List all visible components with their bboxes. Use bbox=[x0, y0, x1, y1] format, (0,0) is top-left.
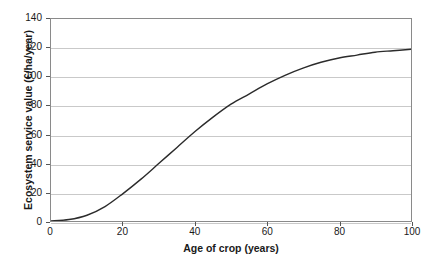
x-tick-60: 60 bbox=[247, 226, 287, 238]
x-tick-label: 20 bbox=[102, 226, 142, 238]
x-tick-40: 40 bbox=[175, 226, 215, 238]
gridline-y-0 bbox=[51, 223, 411, 224]
x-tick-label: 80 bbox=[320, 226, 360, 238]
y-tick-label: 60 bbox=[0, 130, 42, 140]
x-tick-80: 80 bbox=[320, 226, 360, 238]
y-axis-title: Ecosystem service value (€/ha/year) bbox=[18, 0, 38, 240]
data-series-curve bbox=[51, 19, 411, 221]
y-tick-label: 20 bbox=[0, 188, 42, 198]
y-tick-label: 140 bbox=[0, 13, 42, 23]
x-tick-100: 100 bbox=[392, 226, 432, 238]
plot-area bbox=[50, 18, 412, 222]
y-tick-60: 60 bbox=[0, 130, 42, 140]
y-tick-mark bbox=[46, 222, 50, 223]
y-tick-label: 100 bbox=[0, 71, 42, 81]
y-tick-100: 100 bbox=[0, 71, 42, 81]
x-tick-label: 0 bbox=[30, 226, 70, 238]
y-tick-120: 120 bbox=[0, 42, 42, 52]
y-tick-40: 40 bbox=[0, 159, 42, 169]
x-tick-label: 40 bbox=[175, 226, 215, 238]
y-tick-140: 140 bbox=[0, 13, 42, 23]
x-tick-label: 100 bbox=[392, 226, 432, 238]
y-tick-label: 40 bbox=[0, 159, 42, 169]
chart-figure: Ecosystem service value (€/ha/year) 0204… bbox=[0, 0, 440, 265]
y-tick-20: 20 bbox=[0, 188, 42, 198]
y-tick-80: 80 bbox=[0, 100, 42, 110]
y-tick-label: 120 bbox=[0, 42, 42, 52]
y-tick-label: 80 bbox=[0, 100, 42, 110]
x-tick-20: 20 bbox=[102, 226, 142, 238]
x-tick-0: 0 bbox=[30, 226, 70, 238]
x-tick-label: 60 bbox=[247, 226, 287, 238]
x-axis-title: Age of crop (years) bbox=[50, 242, 412, 254]
